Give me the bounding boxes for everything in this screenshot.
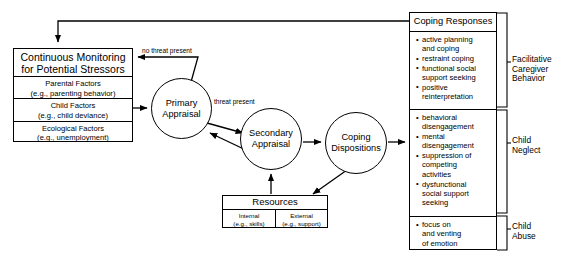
factor-row-ecological: Ecological Factors (e.g., unemployment) <box>14 121 132 143</box>
factor-row-parental: Parental Factors (e.g., parenting behavi… <box>14 76 132 98</box>
edge-label-no-threat-present: no threat present <box>142 47 192 55</box>
coping-responses-section-emotion: focus on and venting of emotion <box>410 216 496 251</box>
resources-columns: Internal (e.g., skills) External (e.g., … <box>223 209 327 228</box>
stress-coping-diagram: Continuous Monitoring for Potential Stre… <box>0 0 574 264</box>
secondary-appraisal-node: Secondary Appraisal <box>240 108 302 170</box>
list-item: behavioral disengagement <box>416 113 494 132</box>
bracket-facilitative <box>497 13 507 107</box>
list-item: positive reinterpretation <box>416 83 494 102</box>
list-item: active planning and coping <box>416 35 494 54</box>
list-item: suppression of competing activities <box>416 151 494 179</box>
edge-threat-present <box>207 123 243 133</box>
coping-responses-section-avoidant: behavioral disengagement mental disengag… <box>410 109 496 216</box>
bracket-abuse <box>497 216 507 250</box>
coping-dispositions-node: Coping Dispositions <box>325 112 387 174</box>
edge-feedback-loop <box>58 21 409 42</box>
continuous-monitoring-box: Continuous Monitoring for Potential Stre… <box>13 48 133 142</box>
bracket-neglect <box>497 110 507 213</box>
coping-responses-title: Coping Responses <box>410 13 496 31</box>
outcome-label-child-neglect: Child Neglect <box>512 136 540 155</box>
coping-responses-list-avoidant: behavioral disengagement mental disengag… <box>416 113 494 207</box>
coping-responses-list-approach: active planning and coping restraint cop… <box>416 35 494 102</box>
coping-responses-box: Coping Responses active planning and cop… <box>409 12 497 250</box>
coping-responses-section-approach: active planning and coping restraint cop… <box>410 31 496 109</box>
resources-internal: Internal (e.g., skills) <box>223 210 275 228</box>
resources-box: Resources Internal (e.g., skills) Extern… <box>222 195 328 228</box>
list-item: restraint coping <box>416 54 494 63</box>
edge-dispositions-to-resources <box>313 170 347 194</box>
list-item: focus on and venting of emotion <box>416 220 494 248</box>
outcome-label-facilitative-caregiver-behavior: Facilitative Caregiver Behavior <box>512 55 552 84</box>
coping-responses-list-emotion: focus on and venting of emotion <box>416 220 494 248</box>
list-item: dysfunctional social support seeking <box>416 180 494 208</box>
edge-label-threat-present: threat present <box>214 98 255 106</box>
monitoring-title: Continuous Monitoring for Potential Stre… <box>14 49 132 76</box>
resources-title: Resources <box>223 196 327 209</box>
outcome-label-child-abuse: Child Abuse <box>512 222 536 241</box>
factor-row-child: Child Factors (e.g., child deviance) <box>14 98 132 120</box>
list-item: functional social support seeking <box>416 64 494 83</box>
resources-external: External (e.g., support) <box>275 210 327 228</box>
primary-appraisal-node: Primary Appraisal <box>151 78 212 139</box>
list-item: mental disengagement <box>416 132 494 151</box>
